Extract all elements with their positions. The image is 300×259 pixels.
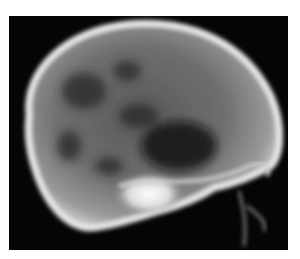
petrous-bone xyxy=(114,172,184,216)
skull-xray-graphic xyxy=(9,16,288,250)
xray-image xyxy=(9,16,288,250)
